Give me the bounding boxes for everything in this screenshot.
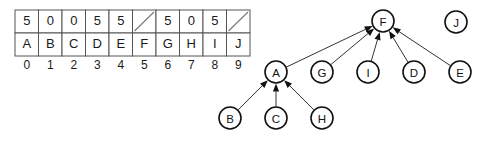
table-value-4: 5 xyxy=(117,13,124,28)
graph-node-label-J: J xyxy=(453,17,459,29)
edge-H-to-A xyxy=(290,86,314,110)
edge-D-to-F xyxy=(393,38,408,63)
edge-B-to-A xyxy=(238,86,262,110)
graph-node-label-E: E xyxy=(456,67,464,79)
table-key-5: F xyxy=(140,36,148,51)
table-key-2: C xyxy=(69,36,78,51)
table-index-3: 3 xyxy=(94,58,101,72)
table-key-3: D xyxy=(93,36,102,51)
table-key-6: G xyxy=(163,36,173,51)
table-key-1: B xyxy=(46,36,55,51)
table-value-6: 5 xyxy=(164,13,171,28)
table-key-4: E xyxy=(116,36,125,51)
graph-nodes: FJAGIDEBCH xyxy=(219,10,471,129)
table-key-7: H xyxy=(187,36,196,51)
graph-node-label-G: G xyxy=(318,67,327,79)
table-value-7: 0 xyxy=(188,13,195,28)
table-value-1: 0 xyxy=(47,13,54,28)
table-index-1: 1 xyxy=(47,58,54,72)
table-key-9: J xyxy=(235,36,242,51)
arrowhead-I-to-F xyxy=(375,32,381,41)
graph-node-label-D: D xyxy=(410,67,418,79)
edge-I-to-F xyxy=(371,40,377,61)
graph-node-label-A: A xyxy=(272,67,280,79)
table-index-5: 5 xyxy=(141,58,148,72)
graph-node-label-B: B xyxy=(226,113,234,125)
table-index-7: 7 xyxy=(188,58,195,72)
arrowhead-E-to-F xyxy=(393,27,401,34)
graph-node-label-C: C xyxy=(272,113,280,125)
table-value-2: 0 xyxy=(70,13,77,28)
table-value-3: 5 xyxy=(94,13,101,28)
graph-node-label-F: F xyxy=(379,16,386,28)
edge-G-to-F xyxy=(331,34,368,65)
figure-canvas: 5A00B10C25D35E4F55G60H75I8J9 FJAGIDEBCH xyxy=(0,0,487,142)
table-value-0: 5 xyxy=(23,13,30,28)
table-index-0: 0 xyxy=(23,58,30,72)
graph-node-label-H: H xyxy=(318,113,326,125)
table-index-4: 4 xyxy=(117,58,124,72)
table-key-8: I xyxy=(213,36,217,51)
graph-node-label-I: I xyxy=(366,67,369,79)
table-index-8: 8 xyxy=(211,58,218,72)
arrowhead-C-to-A xyxy=(273,84,279,92)
table-value-8: 5 xyxy=(211,13,218,28)
arrowhead-D-to-F xyxy=(389,31,396,39)
table-key-0: A xyxy=(22,36,31,51)
table-index-2: 2 xyxy=(70,58,77,72)
hash-table: 5A00B10C25D35E4F55G60H75I8J9 xyxy=(15,10,250,72)
figure-root: 5A00B10C25D35E4F55G60H75I8J9 FJAGIDEBCH xyxy=(0,0,487,142)
table-index-9: 9 xyxy=(235,58,242,72)
table-index-6: 6 xyxy=(164,58,171,72)
